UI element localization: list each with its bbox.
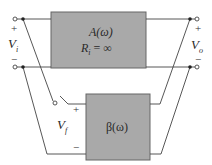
feedback-minus-sign: − — [73, 142, 79, 153]
feedback-voltage-label: Vf — [57, 118, 67, 135]
input-minus-sign: − — [11, 54, 17, 65]
switch-contact — [53, 101, 57, 105]
amplifier-block — [51, 12, 146, 68]
output-terminal-plus — [195, 17, 199, 21]
switch-blade — [60, 96, 68, 104]
input-node-bottom — [21, 65, 25, 69]
feedback-gain-label: β(ω) — [106, 121, 128, 133]
input-plus-sign: + — [11, 23, 17, 34]
output-node-top — [188, 17, 192, 21]
feedback-amplifier-diagram: A(ω) Ri = ∞ β(ω) + Vi − + Vo − + Vf − — [0, 0, 212, 165]
output-plus-sign: + — [195, 23, 201, 34]
input-voltage-label: Vi — [8, 37, 18, 54]
input-terminal-plus — [13, 17, 17, 21]
input-node-top — [21, 17, 25, 21]
output-minus-sign: − — [195, 54, 201, 65]
output-terminal-minus — [195, 65, 199, 69]
input-terminal-minus — [13, 65, 17, 69]
output-node-bottom — [188, 65, 192, 69]
amplifier-gain-label: A(ω) — [89, 26, 113, 38]
feedback-plus-sign: + — [73, 104, 79, 115]
amplifier-ri-label: Ri = ∞ — [81, 42, 112, 57]
